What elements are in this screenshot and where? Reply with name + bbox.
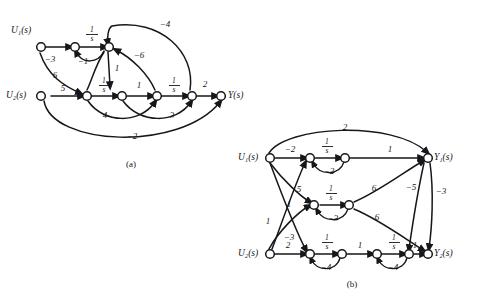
gain-b-b1-b2-frac: 1 s	[326, 184, 337, 202]
gain-b-c1-c2-den: s	[326, 242, 329, 251]
gain-a-n2-n1: −1	[78, 56, 89, 66]
gain-b-u1-a1: −2	[285, 144, 296, 154]
gain-a-u2-y: −2	[127, 131, 138, 141]
gain-a-n6-n2: −4	[160, 19, 171, 29]
node-b-a1	[306, 154, 315, 163]
node-a-n6	[188, 92, 197, 101]
gain-b-c3-c4-frac: 1 s	[389, 233, 400, 251]
edge-n2-n3-vertical	[108, 52, 110, 86]
signal-flow-graph-figure: U₁(s) U₂(s) Y(s) −3 1 s −1 6 1 5 1 s 1 1	[0, 0, 494, 304]
label-b-y2: Y₂(s)	[434, 248, 453, 259]
figure-canvas: U₁(s) U₂(s) Y(s) −3 1 s −1 6 1 5 1 s 1 1	[0, 0, 494, 304]
node-b-u2	[266, 250, 275, 259]
caption-b: (b)	[347, 279, 358, 289]
gain-a-n1-n2-num: 1	[90, 25, 94, 34]
gain-a-n5-n2: −6	[134, 50, 145, 60]
gain-b-a2-y1: 1	[388, 144, 393, 154]
gain-b-c2-c3: 1	[358, 240, 363, 250]
node-b-b2	[345, 201, 354, 210]
gain-b-b1-b2-den: s	[330, 193, 333, 202]
node-b-a2	[341, 154, 350, 163]
gain-a-n4-n5: 1	[137, 80, 142, 90]
gain-a-n5-n6-num: 1	[172, 76, 176, 85]
gain-b-c4-y2: 1	[413, 240, 418, 250]
gain-a-n2-n3: 1	[115, 63, 120, 73]
edge-b-y1-y2	[429, 163, 432, 248]
gain-b-u1-b1: 5	[297, 184, 302, 194]
node-b-y2	[424, 250, 433, 259]
gain-b-c1-c2-frac: 1 s	[322, 233, 333, 251]
gain-b-b2-b1: −3	[328, 213, 339, 223]
node-u1-a	[37, 43, 46, 52]
gain-a-n1-n2-frac: 1 s	[86, 25, 98, 43]
node-a-n1	[71, 43, 80, 52]
node-b-b1	[310, 201, 319, 210]
gain-a-u1-n3: 6	[53, 70, 58, 80]
gain-a-u1-n1: −3	[45, 54, 56, 64]
caption-a: (a)	[126, 159, 136, 169]
gain-b-c4-c3: −4	[388, 262, 399, 272]
node-a-n2	[105, 43, 114, 52]
gain-b-y1-y2: −3	[436, 186, 447, 196]
gain-a-n5-n6-den: s	[173, 85, 176, 94]
label-b-y1: Y₁(s)	[434, 152, 453, 163]
gain-a-n3-n4-num: 1	[102, 76, 106, 85]
gain-a-n1-n2-den: s	[91, 34, 94, 43]
gain-b-c3-c4-den: s	[393, 242, 396, 251]
gain-a-n3-n5: 4	[103, 110, 108, 120]
node-u2-a	[37, 92, 46, 101]
gain-b-y1-c4: −5	[406, 182, 417, 192]
edge-n4-n6	[123, 101, 191, 118]
gain-b-u2-b1: 1	[266, 216, 271, 226]
node-a-n5	[153, 92, 162, 101]
gain-b-u1-y1: 2	[343, 122, 348, 132]
node-a-n3	[83, 92, 92, 101]
gain-a-n3-n4-frac: 1 s	[99, 76, 110, 94]
gain-a-u2-n3: 5	[61, 83, 66, 93]
gain-b-c2-c1: −4	[321, 262, 332, 272]
label-b-u1: U₁(s)	[238, 152, 258, 163]
gain-b-a2-a1: −2	[324, 166, 335, 176]
gain-b-b1-b2-num: 1	[329, 184, 333, 193]
gain-a-n3-n4-den: s	[103, 85, 106, 94]
gain-b-b2-y2: 6	[375, 212, 380, 222]
gain-b-a1-a2-frac: 1 s	[322, 137, 333, 155]
gain-b-u2-c1: 2	[286, 240, 291, 250]
label-b-u2: U₂(s)	[238, 248, 258, 259]
graph-a: U₁(s) U₂(s) Y(s) −3 1 s −1 6 1 5 1 s 1 1	[6, 19, 243, 169]
node-a-n4	[118, 92, 127, 101]
gain-b-a1-a2-den: s	[326, 146, 329, 155]
label-u2-a: U₂(s)	[6, 90, 26, 101]
edge-b-u1-b1	[270, 163, 310, 202]
node-b-u1	[266, 154, 275, 163]
edge-b-y1-c4	[409, 163, 424, 249]
node-b-c4	[405, 250, 414, 259]
node-y-a	[217, 92, 226, 101]
node-b-c2	[338, 250, 347, 259]
gain-a-n4-n6: 3	[169, 110, 175, 120]
node-b-c3	[373, 250, 382, 259]
gain-a-n5-n6-frac: 1 s	[169, 76, 180, 94]
gain-b-u1-c1: 1	[287, 199, 292, 209]
node-b-c1	[306, 250, 315, 259]
node-b-y1	[424, 154, 433, 163]
label-y-a: Y(s)	[228, 90, 243, 101]
gain-b-b2-y1: 6	[372, 183, 377, 193]
label-u1-a: U₁(s)	[11, 25, 31, 36]
gain-b-c1-c2-num: 1	[325, 233, 329, 242]
graph-b: U₁(s) U₂(s) Y₁(s) Y₂(s) 2 −2 1 s −2 1 5 …	[238, 122, 453, 289]
gain-b-a1-a2-num: 1	[325, 137, 329, 146]
gain-a-n6-y: 2	[203, 79, 208, 89]
gain-b-c3-c4-num: 1	[392, 233, 396, 242]
